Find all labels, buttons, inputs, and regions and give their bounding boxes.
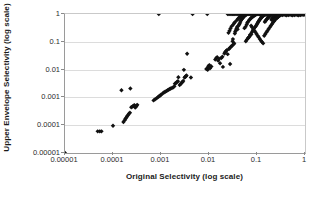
data-points — [65, 14, 305, 153]
data-point — [221, 65, 225, 69]
x-axis-title: Original Selectivity (log scale) — [64, 172, 305, 181]
scatter-chart: Upper Envelope Selectivity (log scale) 1… — [0, 0, 322, 197]
data-point — [111, 124, 115, 128]
data-point — [205, 14, 209, 16]
data-point — [189, 75, 193, 79]
data-point — [157, 14, 161, 16]
y-tick-label-3: 0.001 — [14, 92, 60, 101]
plot-area — [64, 13, 306, 154]
data-point — [176, 75, 180, 79]
data-point — [128, 86, 132, 90]
data-point — [185, 52, 189, 56]
y-tick-label-1: 0.1 — [14, 36, 60, 45]
data-point — [119, 88, 123, 92]
y-tick-label-2: 0.01 — [14, 64, 60, 73]
data-point — [228, 62, 232, 66]
y-axis-title-text: Upper Envelope Selectivity (log scale) — [2, 3, 11, 151]
y-tick-label-0: 1 — [14, 9, 60, 18]
gridlines — [65, 43, 305, 126]
x-tick-label-5: 1 — [274, 155, 322, 164]
data-point — [182, 68, 186, 72]
plot-svg — [65, 14, 305, 153]
data-point — [190, 14, 194, 16]
data-point — [65, 151, 67, 153]
y-axis-title: Upper Envelope Selectivity (log scale) — [0, 0, 12, 155]
y-tick-label-4: 0.0001 — [14, 120, 60, 129]
